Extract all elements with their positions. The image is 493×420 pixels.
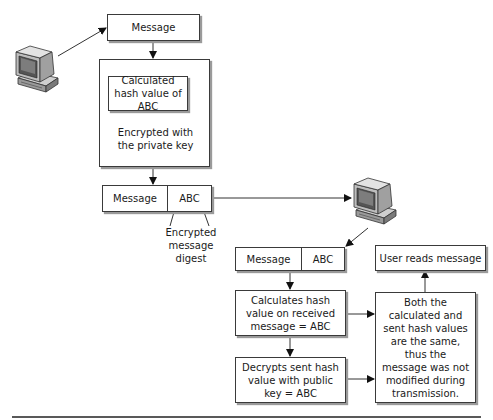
hash-value-box: Calculated hash value of ABC xyxy=(108,76,188,111)
digest-annotation: Encrypted message digest xyxy=(160,226,222,265)
sender-computer-icon xyxy=(12,44,62,96)
hash-value-label: Calculated hash value of ABC xyxy=(113,74,183,113)
comparison-box: Both the calculated and sent hash values… xyxy=(375,292,476,403)
sender-message-box: Message xyxy=(107,14,200,41)
packet-digest-cell: ABC xyxy=(168,186,211,211)
transmitted-packet: Message ABC xyxy=(102,185,212,212)
received-packet: Message ABC xyxy=(235,247,345,271)
receiver-computer-icon xyxy=(350,176,400,228)
user-reads-message-label: User reads message xyxy=(380,252,482,265)
decrypt-hash-step: Decrypts sent hash value with public key… xyxy=(235,357,346,403)
packet-message-cell: Message xyxy=(103,186,168,211)
user-reads-message-box: User reads message xyxy=(375,245,486,271)
received-message-cell: Message xyxy=(236,248,302,270)
sender-message-label: Message xyxy=(132,21,176,34)
encryption-box: Calculated hash value of ABC Encrypted w… xyxy=(99,59,210,167)
calculate-hash-label: Calculates hash value on received messag… xyxy=(240,294,341,333)
calculate-hash-step: Calculates hash value on received messag… xyxy=(235,290,346,336)
received-digest-cell: ABC xyxy=(302,248,344,270)
encrypt-label: Encrypted with the private key xyxy=(110,126,201,152)
comparison-label: Both the calculated and sent hash values… xyxy=(381,296,470,400)
decrypt-hash-label: Decrypts sent hash value with public key… xyxy=(240,361,341,400)
